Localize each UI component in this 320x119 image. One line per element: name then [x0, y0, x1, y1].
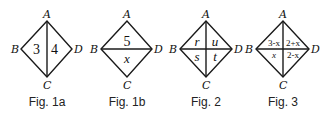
vertex-label-d: D — [153, 43, 163, 56]
figure-3: A B C D 3-x 2+x x 2-x Fig. 3 — [244, 8, 320, 109]
region-right-value: 4 — [51, 42, 58, 57]
figure-caption: Fig. 3 — [268, 95, 298, 109]
figure-2: A B C D r u s t Fig. 2 — [168, 8, 243, 109]
figure-1b: A B C D 5 x Fig. 1b — [89, 8, 163, 109]
vertex-label-c: C — [123, 79, 132, 92]
figure-1a: A B C D 3 4 Fig. 1a — [10, 8, 83, 109]
vertex-label-d: D — [310, 43, 320, 56]
vertex-label-c: C — [202, 79, 211, 92]
region-bottom-left-value: x — [271, 50, 276, 60]
region-bottom-right-value: 2-x — [287, 50, 299, 60]
diagram-canvas: A B C D 3 4 Fig. 1a A B C D 5 x Fig. 1b … — [0, 0, 320, 119]
region-top-left-value: 3-x — [268, 38, 280, 48]
region-top-right-value: 2+x — [286, 38, 301, 48]
region-bottom-right-value: t — [213, 49, 217, 64]
vertex-label-a: A — [42, 8, 51, 21]
vertex-label-a: A — [278, 8, 287, 21]
vertex-label-c: C — [279, 79, 288, 92]
region-top-value: 5 — [124, 34, 131, 49]
vertex-label-b: B — [168, 43, 177, 56]
vertex-label-d: D — [73, 43, 83, 56]
figure-caption: Fig. 1b — [109, 95, 146, 109]
vertex-label-b: B — [244, 43, 253, 56]
vertex-label-b: B — [10, 43, 19, 56]
region-bottom-value: x — [123, 51, 130, 66]
figure-caption: Fig. 1a — [29, 95, 66, 109]
vertex-label-d: D — [233, 43, 243, 56]
vertex-label-a: A — [201, 8, 210, 21]
vertex-label-a: A — [122, 8, 131, 21]
vertex-label-c: C — [43, 79, 52, 92]
region-top-right-value: u — [212, 34, 219, 49]
figure-caption: Fig. 2 — [191, 95, 221, 109]
region-bottom-left-value: s — [194, 49, 199, 64]
vertex-label-b: B — [89, 43, 98, 56]
region-top-left-value: r — [194, 34, 200, 49]
region-left-value: 3 — [33, 42, 40, 57]
